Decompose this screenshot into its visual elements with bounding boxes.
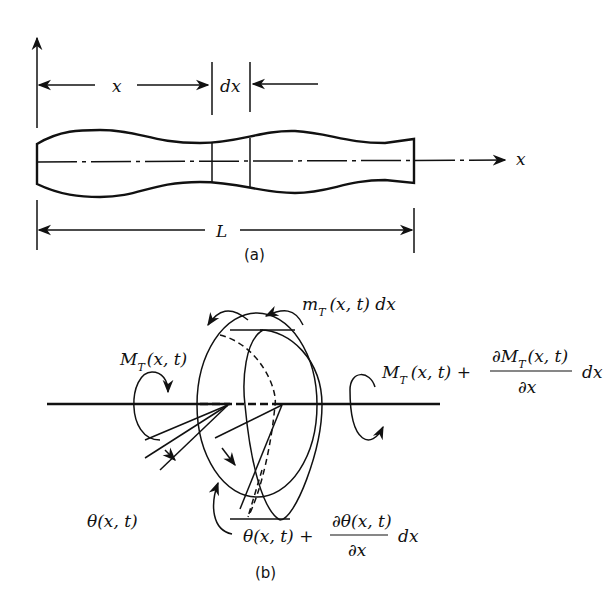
- svg-text:MT(x, t) +: MT(x, t) +: [381, 362, 471, 387]
- torsion-diagram: x dx x L (a): [0, 0, 615, 590]
- L-dimension-label: L: [215, 221, 227, 241]
- right-moment-label: MT(x, t) + ∂MT(x, t) ∂x dx: [381, 346, 603, 397]
- distributed-torque-label: mT(x, t) dx: [302, 294, 396, 319]
- svg-text:dx: dx: [398, 526, 419, 546]
- svg-text:θ(x, t) +: θ(x, t) +: [243, 526, 313, 546]
- angle-ray-right-3: [248, 470, 262, 517]
- right-angle-leader: [214, 483, 232, 534]
- x-axis-label: x: [516, 149, 526, 169]
- dx-dimension-label: dx: [220, 76, 241, 96]
- figure-a: x dx x L (a): [37, 38, 526, 264]
- figure-a-caption: (a): [244, 246, 265, 264]
- svg-text:MT(x, t): MT(x, t): [119, 349, 187, 374]
- angle-ray-left-1: [145, 405, 228, 440]
- left-moment-arrow: [134, 372, 168, 440]
- angle-arrow-right: [222, 448, 235, 465]
- svg-text:∂MT(x, t): ∂MT(x, t): [492, 346, 568, 371]
- figure-b-caption: (b): [255, 564, 276, 582]
- angle-arrow-left: [165, 450, 175, 460]
- svg-text:dx: dx: [582, 362, 603, 382]
- distributed-torque-arrow-left: [208, 311, 248, 325]
- angle-ray-left-2: [160, 405, 228, 470]
- disk-right-face-visible: [260, 330, 322, 520]
- angle-ray-left-3: [145, 405, 228, 458]
- shaft-outline: [37, 130, 414, 197]
- right-moment-arrow: [350, 375, 383, 440]
- figure-b: mT(x, t) dx MT(x, t) MT(x, t) + ∂MT(x, t…: [47, 294, 603, 582]
- left-moment-label: MT(x, t): [119, 349, 187, 374]
- shaft-centerline: [37, 160, 505, 162]
- svg-text:∂θ(x, t): ∂θ(x, t): [332, 511, 392, 531]
- svg-text:∂x: ∂x: [518, 377, 537, 397]
- svg-text:mT(x, t) dx: mT(x, t) dx: [302, 294, 396, 319]
- svg-text:∂x: ∂x: [348, 540, 367, 560]
- left-angle-label: θ(x, t): [87, 511, 138, 531]
- x-dimension-label: x: [112, 76, 122, 96]
